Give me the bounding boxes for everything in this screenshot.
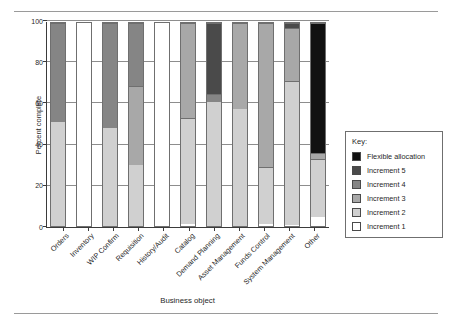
legend-label: Increment 5	[367, 166, 406, 175]
legend-label: Increment 2	[367, 208, 406, 217]
bar-segment	[311, 23, 325, 153]
bar-segment	[259, 224, 273, 226]
stacked-bar	[258, 22, 274, 227]
y-axis-tick-label: 0	[26, 224, 43, 231]
legend-label: Increment 1	[367, 222, 406, 231]
legend-items: Flexible allocationIncrement 5Increment …	[352, 149, 442, 233]
x-axis-tick-label: System Management	[242, 232, 296, 286]
x-axis-tick-label: Orders	[49, 232, 70, 253]
legend-swatch-icon	[352, 222, 361, 231]
legend-swatch-icon	[352, 166, 361, 175]
legend-item[interactable]: Increment 3	[352, 191, 442, 205]
legend-label: Increment 3	[367, 194, 406, 203]
stacked-bar	[232, 22, 248, 227]
bar-segment	[311, 217, 325, 226]
stacked-bar	[50, 22, 66, 227]
bar-segment	[181, 23, 195, 118]
bar-segment	[285, 81, 299, 225]
x-axis-tick-labels: OrdersInventoryWIP ConfirmRequisitionHis…	[46, 232, 329, 294]
figure-top-rule	[14, 11, 438, 12]
legend-item[interactable]: Flexible allocation	[352, 149, 442, 163]
stacked-bar	[76, 22, 92, 227]
gridline	[47, 20, 329, 21]
bar-segment	[259, 23, 273, 167]
x-axis-tick-label: Catalog	[173, 232, 196, 255]
bar-segment	[285, 28, 299, 81]
bar-segment	[51, 23, 65, 122]
bar-segment	[207, 94, 221, 102]
stacked-bar	[206, 22, 222, 227]
bar-segment	[155, 23, 169, 226]
bar-segment	[103, 23, 117, 128]
legend-item[interactable]: Increment 4	[352, 177, 442, 191]
bar-segment	[129, 23, 143, 86]
stacked-bar	[284, 22, 300, 227]
x-axis-tick-label: Other	[304, 232, 323, 251]
bar-segment	[207, 102, 221, 226]
stacked-bar	[128, 22, 144, 227]
y-axis-label: Percent complete	[34, 95, 43, 153]
legend-label: Flexible allocation	[367, 152, 425, 161]
stacked-bar	[154, 22, 170, 227]
y-axis-tick-label: 100	[26, 18, 43, 25]
bar-segment	[311, 159, 325, 217]
bar-segment	[77, 23, 91, 226]
figure-bottom-rule	[14, 313, 438, 314]
bar-segment	[129, 86, 143, 165]
bar-segment	[51, 122, 65, 226]
bar-segment	[181, 118, 195, 224]
bar-segment	[103, 128, 117, 226]
figure-container: 020406080100 Percent complete OrdersInve…	[0, 0, 452, 329]
bar-segment	[233, 23, 247, 109]
legend: Key: Flexible allocationIncrement 5Incre…	[345, 131, 443, 238]
stacked-bar	[102, 22, 118, 227]
bar-segment	[181, 224, 195, 226]
legend-item[interactable]: Increment 1	[352, 219, 442, 233]
bar-segment	[233, 109, 247, 226]
legend-item[interactable]: Increment 2	[352, 205, 442, 219]
x-axis-label: Business object	[46, 296, 329, 305]
legend-title: Key:	[352, 137, 442, 146]
bar-segment	[285, 225, 299, 226]
plot-area: 020406080100 Percent complete	[46, 22, 329, 228]
legend-swatch-icon	[352, 194, 361, 203]
legend-swatch-icon	[352, 152, 361, 161]
bar-segment	[207, 23, 221, 94]
legend-item[interactable]: Increment 5	[352, 163, 442, 177]
bar-segment	[259, 167, 273, 224]
legend-label: Increment 4	[367, 180, 406, 189]
legend-swatch-icon	[352, 180, 361, 189]
y-axis-tick-label: 20	[26, 182, 43, 189]
stacked-bar	[310, 22, 326, 227]
y-axis-tick-label: 80	[26, 59, 43, 66]
stacked-bar	[180, 22, 196, 227]
y-axis-tickmark	[43, 20, 47, 21]
legend-swatch-icon	[352, 208, 361, 217]
bar-segment	[129, 165, 143, 226]
bar-series-group	[47, 22, 329, 227]
